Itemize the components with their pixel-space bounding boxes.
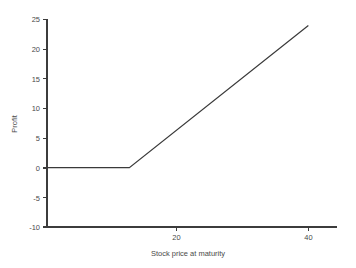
y-tick-label-0: 0 <box>36 164 40 173</box>
y-tick-label-15: 15 <box>32 75 40 84</box>
x-tick-label-20: 20 <box>172 233 180 242</box>
y-tick-label-5: 5 <box>36 134 40 143</box>
y-tick-label-neg5: -5 <box>33 194 40 203</box>
y-tick-label-neg10: -10 <box>29 223 40 232</box>
profit-payoff-chart: 25 20 15 10 5 0 -5 -10 20 40 Stock price… <box>0 0 356 268</box>
chart-figure: 25 20 15 10 5 0 -5 -10 20 40 Stock price… <box>0 0 356 268</box>
profit-line-series <box>47 25 308 167</box>
y-tick-label-20: 20 <box>32 45 40 54</box>
y-tick-label-10: 10 <box>32 104 40 113</box>
y-tick-label-25: 25 <box>32 15 40 24</box>
x-tick-label-40: 40 <box>304 233 312 242</box>
x-axis-title: Stock price at maturity <box>151 249 225 258</box>
y-axis-title: Profit <box>10 114 19 132</box>
